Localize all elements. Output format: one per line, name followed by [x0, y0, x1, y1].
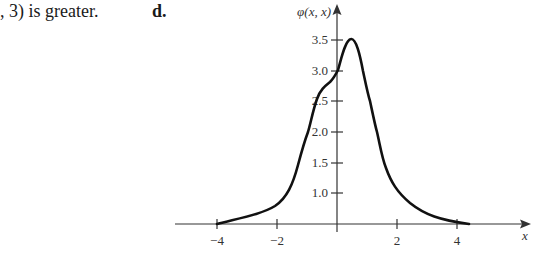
x-tick-label: −4	[210, 233, 224, 248]
x-axis-label: x	[521, 228, 528, 243]
y-tick-label: 1.0	[312, 185, 328, 200]
x-tick-label: 4	[454, 233, 461, 248]
x-tick-label: −2	[270, 233, 284, 248]
y-tick-labels: 1.0 1.5 2.0 2.5 3.0 3.5	[312, 32, 328, 200]
x-tick-label: 2	[394, 233, 401, 248]
phi-plot: −4 −2 2 4 1.0 1.5 2.0 2.5 3.0 3.5 φ(x, x…	[0, 0, 538, 261]
x-tick-labels: −4 −2 2 4	[210, 233, 461, 248]
y-tick-label: 2.0	[312, 124, 328, 139]
y-tick-label: 1.5	[312, 155, 328, 170]
y-axis-label: φ(x, x)	[297, 4, 331, 19]
y-tick-label: 3.5	[312, 32, 328, 47]
y-tick-label: 3.0	[312, 63, 328, 78]
